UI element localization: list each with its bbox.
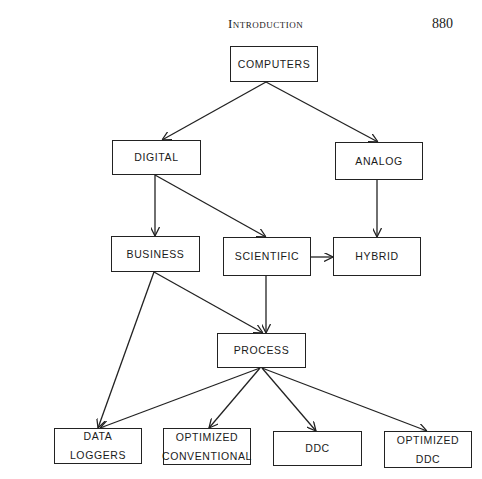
node-process: PROCESS [217,333,306,368]
node-label: DIGITAL [134,148,178,167]
arrow-process-to-data-loggers [100,368,260,428]
node-hybrid: HYBRID [333,237,421,276]
node-label: CONVENTIONAL [162,447,252,466]
node-label: BUSINESS [127,245,185,264]
node-data-loggers: DATALOGGERS [54,428,142,464]
node-label: OPTIMIZED [397,431,460,450]
node-scientific: SCIENTIFIC [223,237,311,276]
node-ddc: DDC [273,431,362,466]
arrow-computers-to-digital [162,82,266,140]
node-label: LOGGERS [70,446,126,465]
node-label: OPTIMIZED [176,428,239,447]
node-label: ANALOG [355,152,402,171]
node-label: COMPUTERS [238,55,311,74]
node-label: PROCESS [234,341,290,360]
arrow-process-to-optimized-ddc [262,368,427,431]
node-label: DDC [305,439,330,458]
arrow-business-to-data-loggers [98,272,154,428]
node-business: BUSINESS [111,236,200,272]
node-optimized-ddc: OPTIMIZEDDDC [384,431,472,468]
node-label: HYBRID [355,247,398,266]
node-analog: ANALOG [335,142,423,180]
arrow-process-to-ddc [262,368,316,431]
node-label: DATA [84,427,113,446]
node-label: SCIENTIFIC [235,247,299,266]
node-digital: DIGITAL [112,140,201,175]
arrow-digital-to-scientific [155,175,266,237]
arrow-computers-to-analog [266,82,378,142]
arrow-business-to-process [154,272,263,333]
node-computers: COMPUTERS [230,46,318,82]
node-label: DDC [416,450,441,469]
node-optimized-conventional: OPTIMIZEDCONVENTIONAL [163,428,251,465]
